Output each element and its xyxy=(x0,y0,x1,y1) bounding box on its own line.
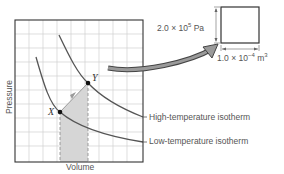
point-x-dot xyxy=(58,110,63,115)
pv-cell-rect xyxy=(221,7,259,43)
low-isotherm-label: Low-temperature isotherm xyxy=(149,136,248,146)
high-isotherm-label: High-temperature isotherm xyxy=(149,112,250,122)
volume-dimension-label: 1.0 × 10−4 m3 xyxy=(217,52,268,63)
point-y-dot xyxy=(86,81,91,86)
point-x-label: X xyxy=(48,106,54,117)
y-axis-label: Pressure xyxy=(4,80,14,114)
pv-diagram xyxy=(0,0,284,174)
pressure-dimension-label: 2.0 × 105 Pa xyxy=(157,22,204,33)
x-axis-label: Volume xyxy=(66,162,94,172)
point-y-label: Y xyxy=(92,72,98,83)
